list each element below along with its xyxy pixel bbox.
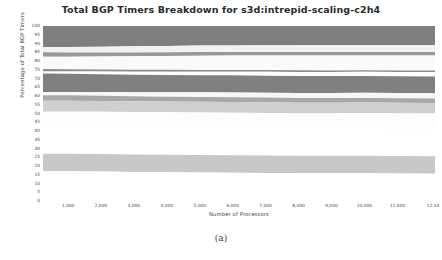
y-tick-label: 25 xyxy=(18,155,40,159)
area-band xyxy=(43,55,435,70)
x-tick-label: 2,000 xyxy=(95,203,108,208)
x-tick-label: 6,000 xyxy=(226,203,239,208)
chart-title: Total BGP Timers Breakdown for s3d:intre… xyxy=(0,4,442,15)
x-tick-label: 4,000 xyxy=(161,203,174,208)
x-tick-label: 11,000 xyxy=(390,203,405,208)
y-tick-label: 90 xyxy=(18,41,40,45)
y-tick-label: 20 xyxy=(18,164,40,168)
area-band xyxy=(43,101,435,114)
y-tick-label: 35 xyxy=(18,138,40,142)
x-tick-label: 8,000 xyxy=(292,203,305,208)
y-tick-label: 50 xyxy=(18,111,40,115)
y-tick-label: 15 xyxy=(18,173,40,177)
y-tick-label: 30 xyxy=(18,146,40,150)
y-tick-label: 5 xyxy=(18,190,40,194)
x-tick-label: 1,000 xyxy=(62,203,75,208)
y-tick-label: 70 xyxy=(18,76,40,80)
y-tick-label: 95 xyxy=(18,33,40,37)
figure-caption: (a) xyxy=(0,233,442,243)
y-tick-label: 40 xyxy=(18,129,40,133)
y-axis-tick-labels: 1009590858075706560555045403530252015105… xyxy=(18,26,40,201)
area-band xyxy=(43,26,435,47)
x-axis-label: Number of Processors xyxy=(43,211,435,217)
plot-area xyxy=(43,26,435,201)
y-tick-label: 75 xyxy=(18,68,40,72)
x-tick-label: 3,000 xyxy=(128,203,141,208)
area-band xyxy=(43,112,435,130)
x-tick-label: 7,000 xyxy=(259,203,272,208)
area-band xyxy=(43,74,435,94)
y-tick-label: 45 xyxy=(18,120,40,124)
area-band xyxy=(43,154,435,174)
x-tick-label: 12,14 xyxy=(427,203,440,208)
y-tick-label: 80 xyxy=(18,59,40,63)
y-tick-label: 100 xyxy=(18,24,40,28)
y-tick-label: 60 xyxy=(18,94,40,98)
y-tick-label: 55 xyxy=(18,103,40,107)
x-tick-label: 9,000 xyxy=(325,203,338,208)
area-band xyxy=(43,171,435,201)
y-tick-label: 65 xyxy=(18,85,40,89)
y-tick-label: 10 xyxy=(18,181,40,185)
y-tick-label: 85 xyxy=(18,50,40,54)
y-tick-label: 0 xyxy=(18,199,40,203)
area-band xyxy=(43,128,435,157)
x-tick-label: 5,000 xyxy=(193,203,206,208)
stacked-area-plot xyxy=(43,26,435,201)
figure-panel: Total BGP Timers Breakdown for s3d:intre… xyxy=(0,0,442,260)
x-tick-label: 10,000 xyxy=(357,203,372,208)
